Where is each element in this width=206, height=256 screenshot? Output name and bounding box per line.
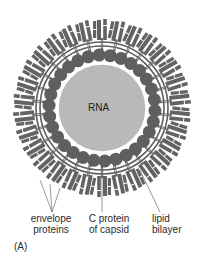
leader-envelope-3 [52,188,60,212]
capsid-protein [43,110,56,123]
envelope-proteins-label: envelope proteins [26,213,76,235]
capsid-protein [109,153,122,166]
capsid-protein [43,99,56,112]
capsid-label-line-1: C protein [86,213,132,224]
rna-label: RNA [88,102,109,113]
envelope-label-line-2: proteins [26,224,76,235]
lipid-bilayer-label: lipid bilayer [152,213,188,235]
lipid-label-line-1: lipid [152,213,188,224]
capsid-protein-label: C protein of capsid [86,213,132,235]
envelope-label-line-1: envelope [26,213,76,224]
capsid-protein [93,49,106,62]
panel-label: (A) [14,241,27,252]
lipid-label-line-2: bilayer [152,224,188,235]
capsid-protein [82,50,95,63]
capsid-protein [148,104,161,117]
capsid-label-line-2: of capsid [86,224,132,235]
capsid-protein [98,154,111,167]
capsid-protein [148,93,161,106]
